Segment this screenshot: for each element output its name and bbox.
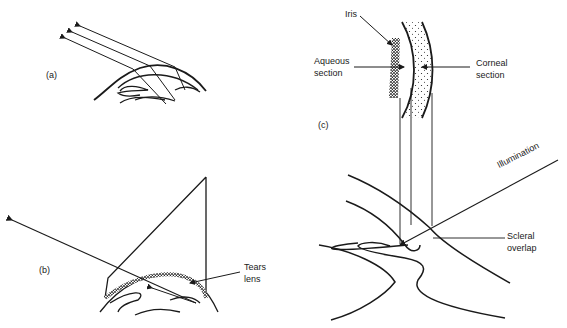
panel-b-drawing: [12, 177, 240, 315]
panel-c-section: [354, 16, 470, 244]
aqueous-label-1: Aqueous: [314, 56, 350, 66]
panel-b-label: (b): [39, 265, 50, 275]
corneal-label-1: Corneal: [476, 58, 508, 68]
corneal-label-2: section: [476, 70, 505, 80]
scleral-label-2: overlap: [507, 243, 537, 253]
scleral-label-1: Scleral: [507, 231, 535, 241]
diagram-drawing: [0, 0, 567, 328]
panel-a-drawing: [65, 26, 206, 104]
panel-c-label: (c): [318, 120, 329, 130]
iris-label: Iris: [345, 9, 357, 19]
diagram-figure: (a) (b) (c) Iris Aqueous section Corneal…: [0, 0, 567, 328]
tears-label-1: Tears: [244, 262, 266, 272]
panel-a-label: (a): [46, 70, 57, 80]
tears-label-2: lens: [244, 274, 261, 284]
aqueous-label-2: section: [314, 68, 343, 78]
